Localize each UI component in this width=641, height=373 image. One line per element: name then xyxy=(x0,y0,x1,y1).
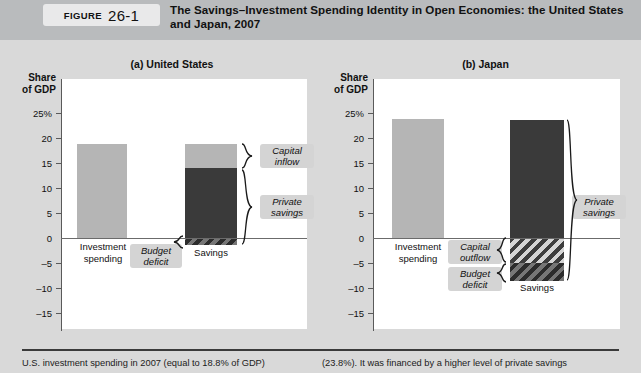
callout-private-savings-japan: Private savings xyxy=(572,195,626,219)
bar-segment-budget-deficit-japan xyxy=(510,263,564,281)
y-ticklabel-15: 15 xyxy=(6,158,52,169)
y-axis-title-b-line2: of GDP xyxy=(320,84,368,96)
y-axis-title: Share of GDP xyxy=(0,72,56,95)
bar-investment-spending-japan xyxy=(392,119,444,238)
bar-label-investment-japan: Investment spending xyxy=(382,241,454,264)
brace-budget-deficit-us xyxy=(173,235,185,249)
y-ticklabel-neg10: –10 xyxy=(6,283,52,294)
y-tick-neg5-b xyxy=(368,263,374,264)
caption-left-column: U.S. investment spending in 2007 (equal … xyxy=(22,358,312,370)
y-ticklabel-neg5-b: –5 xyxy=(320,258,364,269)
y-tick-neg10 xyxy=(56,288,62,289)
bar-segment-budget-deficit-us xyxy=(185,238,237,245)
bar-label-savings-japan: Savings xyxy=(504,282,570,294)
panel-united-states: (a) United States Share of GDP 25% 20 15… xyxy=(0,40,320,340)
callout-private-savings-japan-line1: Private xyxy=(575,196,623,207)
panel-japan: (b) Japan Share of GDP 25% 20 15 10 5 0 … xyxy=(320,40,641,340)
callout-capital-outflow-japan-line1: Capital xyxy=(451,241,499,252)
y-ticklabel-25: 25% xyxy=(6,108,52,119)
y-axis-title-b: Share of GDP xyxy=(320,72,368,95)
y-tick-10-b xyxy=(368,188,374,189)
y-tick-neg5 xyxy=(56,263,62,264)
callout-budget-deficit-japan-line1: Budget xyxy=(451,268,499,279)
y-tick-5 xyxy=(56,213,62,214)
y-axis-title-line1: Share xyxy=(0,72,56,84)
y-tick-5-b xyxy=(368,213,374,214)
figure-title: The Savings–Investment Spending Identity… xyxy=(170,3,632,32)
footer-divider xyxy=(22,349,619,351)
figure-number-badge: FIGURE 26-1 xyxy=(43,4,160,26)
y-tick-15 xyxy=(56,163,62,164)
callout-budget-deficit-japan-line2: deficit xyxy=(451,279,499,290)
y-ticklabel-neg15: –15 xyxy=(6,308,52,319)
y-ticklabel-0-b: 0 xyxy=(320,233,364,244)
y-ticklabel-10: 10 xyxy=(6,183,52,194)
y-ticklabel-neg10-b: –10 xyxy=(320,283,364,294)
y-ticklabel-10-b: 10 xyxy=(320,183,364,194)
callout-capital-inflow-us-line2: inflow xyxy=(263,156,311,167)
y-tick-25 xyxy=(56,113,62,114)
brace-budget-deficit-japan xyxy=(496,263,508,283)
callout-capital-outflow-japan-line2: outflow xyxy=(451,252,499,263)
bar-investment-spending-us xyxy=(77,144,127,238)
caption-right-column: (23.8%). It was financed by a higher lev… xyxy=(322,358,619,370)
y-ticklabel-0: 0 xyxy=(6,233,52,244)
y-tick-neg15 xyxy=(56,313,62,314)
y-ticklabel-20: 20 xyxy=(6,133,52,144)
y-tick-10 xyxy=(56,188,62,189)
brace-private-savings-us xyxy=(240,169,254,245)
y-ticklabel-25-b: 25% xyxy=(320,108,364,119)
y-tick-20 xyxy=(56,138,62,139)
y-ticklabel-5: 5 xyxy=(6,208,52,219)
y-axis-line-b xyxy=(373,79,374,331)
y-ticklabel-20-b: 20 xyxy=(320,133,364,144)
figure-tag-word: FIGURE xyxy=(64,10,102,21)
y-ticklabel-5-b: 5 xyxy=(320,208,364,219)
callout-private-savings-japan-line2: savings xyxy=(575,207,623,218)
y-tick-neg15-b xyxy=(368,313,374,314)
y-ticklabel-neg15-b: –15 xyxy=(320,308,364,319)
bar-label-investment-us-line2: spending xyxy=(67,253,139,265)
brace-private-savings-japan xyxy=(565,119,579,281)
y-axis-title-b-line1: Share xyxy=(320,72,368,84)
callout-capital-inflow-us: Capital inflow xyxy=(260,144,314,168)
y-tick-20-b xyxy=(368,138,374,139)
bar-segment-private-savings-us xyxy=(185,168,237,238)
callout-private-savings-us: Private savings xyxy=(260,195,314,219)
y-ticklabel-neg5: –5 xyxy=(6,258,52,269)
y-tick-neg10-b xyxy=(368,288,374,289)
bar-segment-capital-inflow-us xyxy=(185,144,237,168)
bar-segment-private-savings-japan xyxy=(510,120,564,238)
callout-capital-outflow-japan: Capital outflow xyxy=(448,240,502,264)
callout-capital-inflow-us-line1: Capital xyxy=(263,145,311,156)
brace-capital-outflow-japan xyxy=(496,237,508,264)
bar-label-investment-us-line1: Investment xyxy=(67,241,139,253)
bar-label-savings-us: Savings xyxy=(178,247,244,259)
y-tick-15-b xyxy=(368,163,374,164)
figure-tag-number: 26-1 xyxy=(108,7,139,24)
callout-private-savings-us-line1: Private xyxy=(263,196,311,207)
bar-segment-capital-outflow-japan xyxy=(510,238,564,263)
bar-label-investment-japan-line1: Investment xyxy=(382,241,454,253)
y-axis-title-line2: of GDP xyxy=(0,84,56,96)
callout-private-savings-us-line2: savings xyxy=(263,207,311,218)
y-ticklabel-15-b: 15 xyxy=(320,158,364,169)
figure-container: FIGURE 26-1 The Savings–Investment Spend… xyxy=(0,0,641,373)
y-axis-line-a xyxy=(61,79,62,331)
bar-label-investment-us: Investment spending xyxy=(67,241,139,264)
panel-a-title: (a) United States xyxy=(0,58,320,70)
callout-budget-deficit-japan: Budget deficit xyxy=(448,267,502,291)
y-tick-25-b xyxy=(368,113,374,114)
panel-b-title: (b) Japan xyxy=(320,58,641,70)
brace-capital-inflow-us xyxy=(240,143,254,169)
callout-budget-deficit-us-line2: deficit xyxy=(133,256,179,267)
bar-label-investment-japan-line2: spending xyxy=(382,253,454,265)
